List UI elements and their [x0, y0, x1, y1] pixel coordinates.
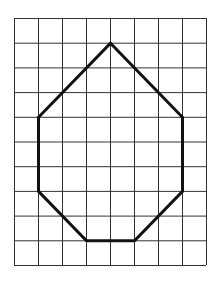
- grid-diagram: [0, 0, 218, 285]
- grid-lines: [14, 18, 207, 266]
